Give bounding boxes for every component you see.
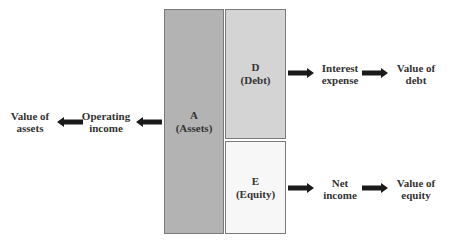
interest-expense-label: Interest expense	[310, 62, 370, 86]
equity-label: (Equity)	[236, 188, 275, 201]
value-of-equity-line2: equity	[386, 189, 446, 201]
net-income-line1: Net	[310, 177, 370, 189]
debt-letter: D	[241, 61, 271, 74]
operating-income-line2: income	[76, 122, 136, 134]
value-of-debt-label: Value of debt	[386, 62, 446, 86]
value-of-equity-label: Value of equity	[386, 177, 446, 201]
value-of-debt-line2: debt	[386, 74, 446, 86]
arrow-left-icon	[57, 117, 83, 127]
interest-expense-line1: Interest	[310, 62, 370, 74]
arrow-right-icon	[362, 68, 388, 78]
debt-label: (Debt)	[241, 74, 271, 87]
value-of-assets-line1: Value of	[2, 110, 58, 122]
operating-income-label: Operating income	[76, 110, 136, 134]
net-income-line2: income	[310, 189, 370, 201]
operating-income-line1: Operating	[76, 110, 136, 122]
arrow-right-icon	[362, 183, 388, 193]
arrow-left-icon	[136, 117, 162, 127]
equity-box: E (Equity)	[225, 141, 286, 234]
equity-letter: E	[236, 175, 275, 188]
value-of-assets-label: Value of assets	[2, 110, 58, 134]
value-of-debt-line1: Value of	[386, 62, 446, 74]
interest-expense-line2: expense	[310, 74, 370, 86]
assets-letter: A	[176, 109, 213, 122]
value-of-assets-line2: assets	[2, 122, 58, 134]
value-of-equity-line1: Value of	[386, 177, 446, 189]
debt-box: D (Debt)	[225, 9, 286, 139]
assets-label: (Assets)	[176, 122, 213, 135]
assets-box: A (Assets)	[164, 9, 224, 234]
net-income-label: Net income	[310, 177, 370, 201]
